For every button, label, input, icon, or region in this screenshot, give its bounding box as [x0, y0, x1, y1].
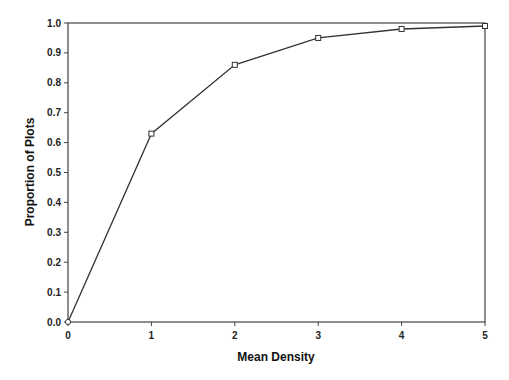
y-tick-label: 0.7	[47, 107, 61, 118]
data-point-marker	[399, 26, 404, 31]
y-tick-label: 0.8	[47, 77, 61, 88]
y-tick-label: 0.1	[47, 287, 61, 298]
y-tick-label: 1.0	[47, 18, 61, 29]
x-tick-label: 3	[315, 330, 321, 341]
y-tick-label: 0.4	[47, 197, 61, 208]
x-tick-label: 0	[65, 330, 71, 341]
y-tick-label: 0.3	[47, 227, 61, 238]
x-axis-title: Mean Density	[237, 350, 315, 364]
data-point-marker	[483, 23, 488, 28]
data-point-marker	[149, 131, 154, 136]
y-tick-label: 0.2	[47, 257, 61, 268]
line-chart: 0.00.10.20.30.40.50.60.70.80.91.0 012345…	[0, 0, 509, 380]
data-point-marker	[65, 319, 70, 324]
x-tick-label: 4	[399, 330, 405, 341]
y-tick-label: 0.6	[47, 137, 61, 148]
y-tick-label: 0.5	[47, 167, 61, 178]
series-line	[68, 26, 485, 322]
x-axis: 012345	[65, 322, 488, 341]
y-axis-title: Proportion of Plots	[23, 117, 37, 226]
x-tick-label: 5	[482, 330, 488, 341]
data-point-marker	[316, 35, 321, 40]
x-tick-label: 1	[149, 330, 155, 341]
y-axis: 0.00.10.20.30.40.50.60.70.80.91.0	[47, 18, 68, 328]
data-point-marker	[232, 62, 237, 67]
y-tick-label: 0.9	[47, 47, 61, 58]
y-tick-label: 0.0	[47, 317, 61, 328]
data-series	[65, 23, 487, 324]
plot-frame	[68, 23, 485, 322]
plot-border	[68, 23, 485, 322]
x-tick-label: 2	[232, 330, 238, 341]
